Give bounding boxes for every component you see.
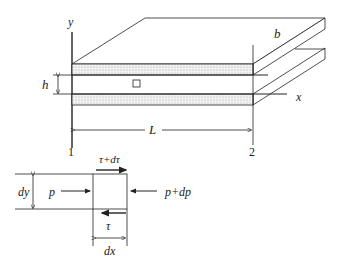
width-label: b [274,26,281,41]
top-plate-top-surface [72,18,325,64]
dx-label: dx [104,244,116,258]
y-axis-label: y [67,15,74,29]
top-plate-front [72,64,253,75]
station-1-label: 1 [68,145,74,159]
station-2-label: 2 [249,145,255,159]
dy-label: dy [18,185,30,199]
element-square [93,174,127,209]
gap-label: h [42,77,49,92]
parallel-plate-diagram: y x b h L 1 2 dy p p+dp τ+dτ τ dx [0,0,342,264]
p-plus-dp-label: p+dp [164,185,191,199]
p-label: p [48,185,55,199]
length-label: L [148,122,156,137]
tau-plus-dtau-label: τ+dτ [99,153,121,165]
tau-label: τ [106,219,111,233]
bottom-plate-front [72,94,253,105]
fluid-element-marker [133,80,140,87]
x-axis-label: x [295,90,302,104]
